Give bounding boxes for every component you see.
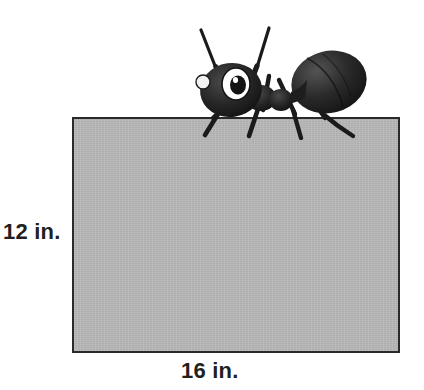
ant-abdomen-icon: [285, 43, 374, 122]
width-dimension-label: 16 in.: [181, 358, 238, 384]
figure-canvas: 12 in. 16 in.: [0, 0, 424, 390]
shaded-rectangle: [72, 117, 400, 353]
ant-illustration: [183, 14, 375, 140]
ant-eye-icon: [222, 68, 250, 100]
height-dimension-label: 12 in.: [3, 219, 60, 245]
